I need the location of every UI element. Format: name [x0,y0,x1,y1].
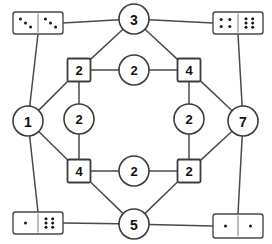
domino-pip [51,217,54,220]
domino-bottom-left[interactable] [13,212,63,234]
domino-pip [245,22,248,25]
node-label: 2 [75,63,82,78]
dominoes-layer [13,12,263,238]
node-circ-mid-right[interactable]: 2 [174,104,204,134]
graph-edge [91,29,124,59]
graph-edge [39,132,68,160]
domino-top-right[interactable] [213,12,263,34]
domino-pip [44,18,47,21]
domino-pip [54,25,57,28]
domino-pip [45,222,48,225]
node-sq-top-left[interactable]: 2 [68,59,91,82]
node-top[interactable]: 3 [119,4,149,34]
node-circ-bot-mid[interactable]: 2 [119,156,149,186]
domino-pip [251,17,254,20]
domino-pip [228,25,231,28]
domino-pip [51,226,54,229]
node-label: 2 [185,112,192,127]
node-left[interactable]: 1 [13,106,43,136]
domino-pip [45,226,48,229]
diagram-canvas: 317522422422 [0,0,272,244]
graph-edge [149,224,213,226]
domino-pip [220,18,223,21]
node-label: 4 [75,164,83,179]
domino-pip [51,222,54,225]
nodes-layer: 317522422422 [13,4,258,239]
domino-pip [19,18,22,21]
node-circ-top-mid[interactable]: 2 [119,55,149,85]
graph-edge [201,81,233,111]
graph-edge [39,82,68,111]
edges-layer [30,20,243,226]
domino-pip [249,225,252,228]
domino-bottom-right[interactable] [213,214,263,238]
domino-pip [228,18,231,21]
node-label: 1 [24,114,32,130]
domino-pip [224,225,227,228]
node-label: 5 [130,217,138,233]
node-label: 7 [239,114,247,130]
graph-edge [63,20,119,23]
domino-graph: 317522422422 [0,0,272,244]
graph-edge [145,182,178,214]
graph-edge [238,136,242,214]
node-bottom[interactable]: 5 [119,209,149,239]
graph-edge [149,20,213,23]
node-label: 3 [130,12,138,28]
node-label: 2 [130,164,137,179]
node-label: 2 [130,63,137,78]
graph-edge [91,182,124,214]
node-label: 2 [75,112,82,127]
node-right[interactable]: 7 [228,106,258,136]
domino-pip [49,22,52,25]
node-label: 4 [185,63,193,78]
domino-pip [45,217,48,220]
graph-edge [201,131,232,160]
graph-edge [30,34,38,106]
domino-pip [24,222,27,225]
node-sq-bot-left[interactable]: 4 [68,160,91,183]
node-sq-top-right[interactable]: 4 [178,59,201,82]
domino-pip [245,17,248,20]
graph-edge [30,136,38,212]
node-sq-bot-right[interactable]: 2 [178,160,201,183]
domino-pip [220,25,223,28]
domino-pip [29,25,32,28]
domino-pip [245,26,248,29]
graph-edge [63,223,119,224]
graph-edge [238,34,242,106]
node-label: 2 [185,164,192,179]
domino-pip [24,22,27,25]
domino-pip [251,22,254,25]
domino-top-left[interactable] [13,12,63,34]
graph-edge [145,29,178,59]
domino-pip [251,26,254,29]
node-circ-mid-left[interactable]: 2 [64,104,94,134]
